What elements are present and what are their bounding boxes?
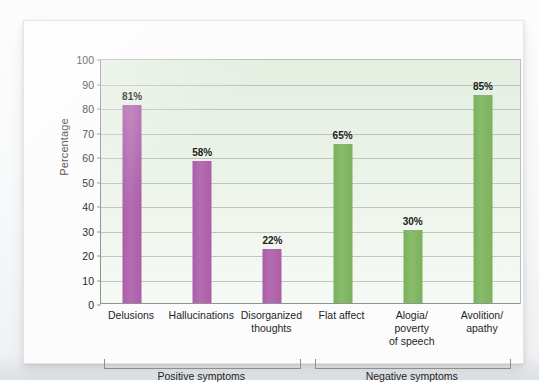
y-tick-mark [97,158,101,159]
x-axis-label-line: apathy [436,322,528,335]
gridline [101,281,520,282]
y-tick-mark [97,109,101,110]
bar: 30% [403,230,422,304]
y-tick-mark [97,231,101,232]
y-tick-label: 10 [82,275,94,287]
x-axis-label-line: of speech [366,335,458,348]
y-tick-label: 80 [82,103,94,115]
gridline [101,109,520,110]
y-tick-mark [97,280,101,281]
y-tick-label: 60 [82,152,94,164]
y-tick-label: 100 [76,54,94,66]
bar-value-label: 58% [192,147,212,158]
y-tick-mark [97,305,101,306]
y-tick-mark [97,60,101,61]
gridline [101,85,520,86]
group-bracket [315,359,512,369]
bar: 22% [263,249,282,303]
group-label: Positive symptoms [104,370,299,382]
y-tick-mark [97,182,101,183]
bar: 81% [123,105,142,303]
bar-value-label: 85% [473,81,493,92]
y-tick-mark [97,256,101,257]
x-axis-label-line: thoughts [225,322,317,335]
y-tick-label: 20 [82,250,94,262]
y-tick-mark [97,84,101,85]
plot-area: 1009080706050403020100 81%58%22%65%30%85… [100,59,521,304]
y-tick-mark [97,133,101,134]
x-axis-label: Avolition/apathy [436,309,528,335]
y-tick-mark [97,207,101,208]
bar-value-label: 22% [262,235,282,246]
y-tick-label: 40 [82,201,94,213]
group-label: Negative symptoms [315,370,510,382]
bar: 58% [193,161,212,303]
bar-value-label: 30% [403,216,423,227]
y-axis-label: Percentage [58,87,70,207]
gridline [101,158,520,159]
bar-value-label: 81% [122,91,142,102]
y-tick-label: 50 [82,177,94,189]
y-tick-label: 70 [82,128,94,140]
bar-value-label: 65% [333,130,353,141]
gridline [101,207,520,208]
gridline [101,134,520,135]
bar: 65% [333,144,352,303]
figure-card: Percentage 1009080706050403020100 81%58%… [23,20,524,364]
y-tick-label: 30 [82,226,94,238]
gridline [101,256,520,257]
x-axis-label-line: Avolition/ [436,309,528,322]
group-bracket [104,359,301,369]
gridline [101,183,520,184]
bar: 85% [473,95,492,303]
y-tick-label: 90 [82,79,94,91]
gridline [101,232,520,233]
